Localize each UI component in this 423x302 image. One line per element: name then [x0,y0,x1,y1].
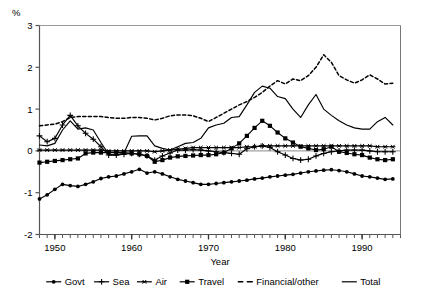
y-axis-title: % [12,7,21,18]
legend-item-air[interactable]: Air [137,276,167,287]
data-point-marker [383,158,387,162]
y-tick-label: -2 [24,229,32,240]
data-point-marker [352,152,356,156]
data-point-marker [114,174,118,178]
data-point-marker [291,140,295,144]
data-point-marker [275,144,280,148]
data-point-marker [360,153,364,157]
data-point-marker [328,149,334,155]
x-tick-label: 1990 [352,242,373,253]
data-point-marker [245,178,249,182]
data-point-marker [336,144,341,148]
data-point-marker [237,179,241,183]
legend-item-travel[interactable]: Travel [180,276,225,287]
y-tick-label: 2 [27,62,32,73]
data-point-marker [160,158,164,162]
axis-labels-layer: -2-1012319501960197019801990%Year [12,7,373,267]
data-point-marker [207,182,211,186]
chart-canvas: -2-1012319501960197019801990%Year GovtSe… [0,0,423,302]
legend-label: Financial/other [256,276,318,287]
data-point-marker [391,157,395,161]
data-point-marker [160,172,164,176]
data-point-marker [45,193,49,197]
data-point-marker [99,177,103,181]
data-point-marker [214,182,218,186]
data-point-marker [382,149,388,155]
data-point-marker [383,145,388,149]
data-point-marker [253,177,257,181]
x-tick-label: 1970 [198,242,219,253]
x-tick-label: 1980 [275,242,296,253]
data-point-marker [137,167,141,171]
data-point-marker [352,147,358,153]
data-point-marker [313,153,319,159]
data-point-marker [76,185,80,189]
data-point-marker [345,151,349,155]
data-point-marker [283,173,287,177]
data-point-marker [76,156,80,160]
data-point-marker [305,156,311,162]
data-point-marker [99,279,105,285]
data-point-marker [107,175,111,179]
data-point-marker [53,187,57,191]
data-point-marker [159,153,165,159]
data-point-marker [168,155,172,159]
data-point-marker [191,153,195,157]
y-tick-label: -1 [24,187,32,198]
data-point-marker [68,184,72,188]
data-point-marker [230,180,234,184]
data-point-marker [353,172,357,176]
data-point-marker [221,146,226,150]
data-point-marker [153,160,157,164]
data-point-marker [345,170,349,174]
data-point-marker [61,182,65,186]
data-point-marker [360,174,364,178]
data-point-marker [45,160,49,164]
data-point-marker [390,149,396,155]
data-point-marker [114,150,118,154]
data-point-marker [52,280,56,284]
data-point-marker [84,182,88,186]
chart-legend: GovtSeaAirTravelFinancial/otherTotal [46,276,380,287]
data-point-marker [144,149,149,153]
axes-layer [36,26,401,240]
data-point-marker [367,148,373,154]
data-point-marker [299,145,303,149]
data-point-marker [68,157,72,161]
legend-label: Air [155,276,167,287]
legend-label: Total [360,276,380,287]
series-travel [37,119,395,165]
data-point-marker [206,148,212,154]
data-point-marker [137,152,141,156]
data-point-marker [283,136,287,140]
data-point-marker [191,181,195,185]
data-point-marker [229,146,233,150]
series-layer [37,55,396,201]
data-point-marker [260,119,264,123]
data-point-marker [222,150,226,154]
data-point-marker [375,145,380,149]
y-tick-label: 0 [27,145,32,156]
data-point-marker [145,154,149,158]
data-point-marker [237,141,241,145]
y-tick-label: 1 [27,104,32,115]
series-govt [38,167,395,200]
x-tick-label: 1960 [121,242,142,253]
data-point-marker [153,170,157,174]
data-point-marker [260,176,264,180]
data-point-marker [314,169,318,173]
data-point-marker [206,153,210,157]
data-point-marker [276,130,280,134]
data-point-marker [391,177,395,181]
legend-item-total[interactable]: Total [342,276,381,287]
data-point-marker [337,150,341,154]
legend-item-sea[interactable]: Sea [94,276,130,287]
legend-item-financial-other[interactable]: Financial/other [238,276,319,287]
data-point-marker [322,168,326,172]
legend-item-govt[interactable]: Govt [46,276,85,287]
data-point-marker [282,152,288,158]
series-line [40,55,393,126]
data-point-marker [37,161,41,165]
data-point-marker [314,148,318,152]
data-point-marker [375,157,379,161]
